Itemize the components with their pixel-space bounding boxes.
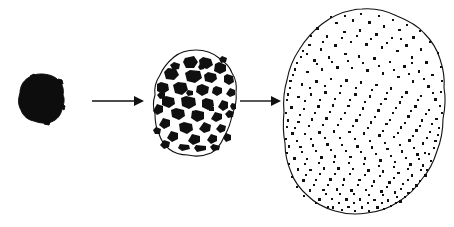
- figure-canvas: [0, 0, 454, 227]
- stage-1-body: [19, 74, 64, 123]
- dispersion-diagram: [0, 0, 454, 227]
- stage-1-solid-blob: [19, 74, 65, 125]
